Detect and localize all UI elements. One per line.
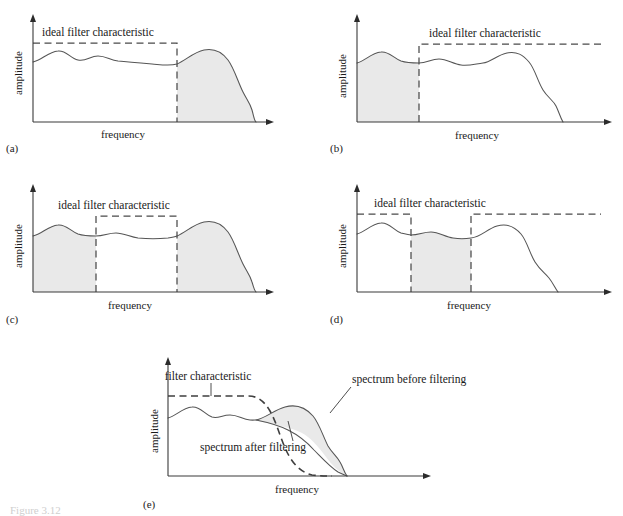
filter-characteristic-d-upper [471, 214, 601, 292]
y-axis-arrow-e [165, 357, 171, 365]
y-axis-arrow-d [354, 184, 360, 192]
x-axis-label-b: frequency [455, 129, 499, 141]
annotation-spectrum-after-e: spectrum after filtering [200, 441, 306, 454]
y-axis-arrow-b [354, 14, 360, 22]
figure-root: amplitude frequency ideal filter charact… [0, 0, 623, 516]
shaded-region-d [411, 232, 471, 292]
y-axis-arrow-a [30, 14, 36, 22]
x-axis-arrow-a [266, 119, 274, 125]
x-axis-arrow-c [266, 289, 274, 295]
annotation-ideal-filter-b: ideal filter characteristic [429, 27, 541, 39]
y-axis-label-b: amplitude [336, 54, 348, 98]
panel-d: amplitude frequency ideal filter charact… [311, 170, 623, 335]
panel-b: amplitude frequency ideal filter charact… [311, 0, 623, 165]
x-axis-arrow-b [604, 119, 612, 125]
y-axis-label-e: amplitude [148, 409, 160, 453]
panel-label-d: (d) [330, 313, 343, 326]
shaded-region-c-high [177, 221, 256, 292]
x-axis-label-d: frequency [447, 299, 491, 311]
shaded-region-c-low [33, 225, 96, 292]
filter-characteristic-c [96, 216, 177, 292]
x-axis-label-e: frequency [275, 483, 319, 495]
x-axis-label-a: frequency [101, 128, 145, 140]
panel-label-e: (e) [143, 498, 156, 511]
x-axis-label-c: frequency [108, 299, 152, 311]
x-axis-arrow-e [423, 473, 431, 479]
annotation-filter-characteristic-e: filter characteristic [165, 370, 252, 382]
panel-label-c: (c) [6, 313, 19, 326]
panel-c: amplitude frequency ideal filter charact… [0, 170, 300, 335]
panel-e: amplitude frequency filter characteristi… [140, 345, 485, 516]
y-axis-label-c: amplitude [12, 224, 24, 268]
annotation-ideal-filter-a: ideal filter characteristic [42, 26, 154, 38]
figure-caption: Figure 3.12 [10, 504, 61, 516]
annotation-spectrum-before-e: spectrum before filtering [352, 373, 467, 386]
panel-a: amplitude frequency ideal filter charact… [0, 0, 300, 165]
annotation-ideal-filter-c: ideal filter characteristic [58, 199, 170, 211]
y-axis-label-a: amplitude [12, 51, 24, 95]
filter-characteristic-b [419, 44, 601, 122]
panel-label-b: (b) [330, 142, 343, 155]
x-axis-arrow-d [604, 289, 612, 295]
y-axis-arrow-c [30, 184, 36, 192]
filter-characteristic-d [357, 214, 411, 292]
y-axis-label-d: amplitude [336, 224, 348, 268]
annotation-ideal-filter-d: ideal filter characteristic [374, 197, 486, 209]
leader-spectrum-before-e [330, 387, 351, 413]
panel-label-a: (a) [6, 142, 19, 155]
filter-characteristic-a [33, 43, 177, 122]
shaded-region-a [177, 49, 256, 122]
